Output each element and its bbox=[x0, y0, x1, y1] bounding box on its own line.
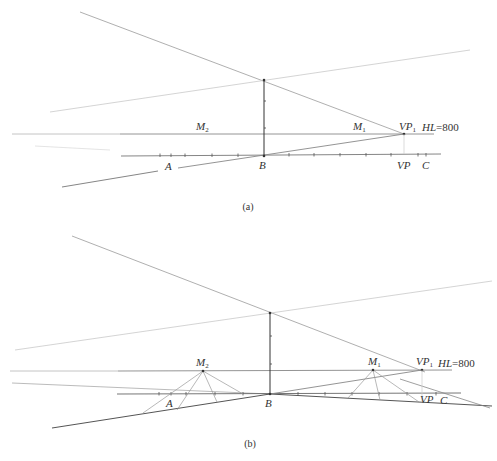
label-hl: HL=800 bbox=[421, 121, 459, 133]
label-m2: M2 bbox=[195, 120, 209, 134]
point-m1 bbox=[372, 369, 375, 372]
label-vp: VP bbox=[420, 393, 434, 405]
horizon-line bbox=[118, 370, 452, 371]
rising-line bbox=[15, 281, 492, 350]
caption-b: (b) bbox=[244, 438, 256, 450]
top-point bbox=[269, 312, 272, 315]
panel-b: M2 M1 VP1 HL=800 A B VP C (b) bbox=[10, 236, 492, 450]
m1-construction-lines bbox=[348, 370, 419, 402]
label-a: A bbox=[164, 160, 172, 172]
label-a: A bbox=[165, 397, 173, 409]
label-c: C bbox=[440, 394, 448, 406]
label-m1: M1 bbox=[352, 120, 366, 134]
ground-line bbox=[117, 393, 461, 394]
panel-a: M2 M1 VP1 HL=800 A B VP C (a) bbox=[12, 12, 470, 213]
line-b-to-right bbox=[270, 394, 492, 406]
faint-left-line bbox=[35, 146, 110, 150]
label-m2: M2 bbox=[195, 356, 209, 370]
ground-line bbox=[121, 154, 441, 156]
line-b-to-vp1 bbox=[270, 370, 422, 394]
caption-a: (a) bbox=[242, 201, 253, 213]
label-b: B bbox=[259, 159, 266, 171]
diagonal-top-to-right bbox=[72, 236, 425, 372]
left-converging-line bbox=[12, 383, 270, 394]
diagonal-top-to-vp1 bbox=[80, 12, 404, 134]
label-vp1: VP1 bbox=[416, 355, 433, 369]
point-m2 bbox=[202, 370, 205, 373]
label-vp: VP bbox=[397, 159, 411, 171]
label-vp1: VP1 bbox=[399, 120, 416, 134]
point-b bbox=[269, 393, 272, 396]
label-m1: M1 bbox=[367, 355, 381, 369]
top-point bbox=[263, 79, 266, 82]
lower-line-left bbox=[62, 171, 158, 187]
lower-line-right bbox=[178, 134, 404, 168]
label-c: C bbox=[422, 159, 430, 171]
label-hl: HL=800 bbox=[437, 357, 475, 369]
rising-line bbox=[50, 50, 470, 112]
point-b bbox=[263, 155, 266, 158]
lower-line-to-b bbox=[52, 394, 270, 428]
label-b: B bbox=[265, 397, 272, 409]
perspective-diagram: M2 M1 VP1 HL=800 A B VP C (a) bbox=[0, 0, 497, 461]
